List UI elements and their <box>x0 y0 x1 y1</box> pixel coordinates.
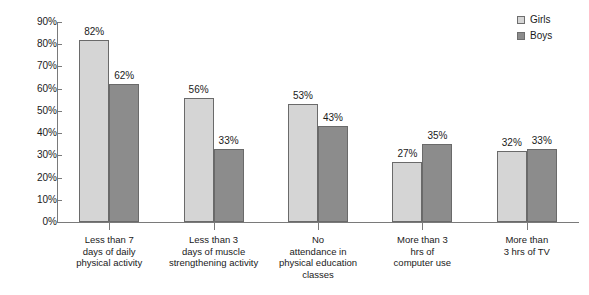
x-axis-tick <box>527 223 528 230</box>
bar-value-label: 43% <box>316 113 350 123</box>
category-label-line: strengthening activity <box>161 257 265 269</box>
category-label-line: More than 3 <box>370 234 474 246</box>
x-axis-tick <box>214 223 215 230</box>
y-axis-tick-label: 20% <box>16 173 57 183</box>
y-axis-tick-label: 10% <box>16 195 57 205</box>
y-axis-tick-label-wrap: 20% <box>16 173 57 183</box>
category-label-1: Less than 3days of musclestrengthening a… <box>161 234 265 269</box>
x-axis-tick <box>109 223 110 230</box>
bar-girls-4 <box>497 151 527 222</box>
bar-boys-1 <box>214 149 244 222</box>
category-label-line: 3 hrs of TV <box>475 246 579 258</box>
y-axis-tick-label: 80% <box>16 39 57 49</box>
y-axis-tick-label-wrap: 40% <box>16 128 57 138</box>
category-label-line: More than <box>475 234 579 246</box>
y-axis-tick-label: 40% <box>16 128 57 138</box>
bar-value-label: 62% <box>107 71 141 81</box>
category-label-line: classes <box>266 269 370 281</box>
category-label-line: days of muscle <box>161 246 265 258</box>
y-axis-tick-label-wrap: 70% <box>16 61 57 71</box>
y-axis-tick-label-wrap: 0% <box>16 217 57 227</box>
y-axis-tick-label: 0% <box>16 217 57 227</box>
category-label-line: Less than 7 <box>57 234 161 246</box>
x-axis-tick <box>422 223 423 230</box>
category-label-line: hrs of <box>370 246 474 258</box>
bar-chart: Girls Boys 0%10%20%30%40%50%60%70%80%90%… <box>0 0 589 295</box>
category-label-line: No <box>266 234 370 246</box>
category-label-4: More than3 hrs of TV <box>475 234 579 257</box>
bar-boys-2 <box>318 126 348 222</box>
y-axis-tick-label-wrap: 50% <box>16 106 57 116</box>
bar-value-label: 56% <box>182 85 216 95</box>
y-axis-tick-label-wrap: 60% <box>16 84 57 94</box>
y-axis-tick-label-wrap: 10% <box>16 195 57 205</box>
category-label-line: physical activity <box>57 257 161 269</box>
category-label-3: More than 3hrs ofcomputer use <box>370 234 474 269</box>
bar-girls-2 <box>288 104 318 222</box>
bar-value-label: 53% <box>286 91 320 101</box>
category-label-2: Noattendance inphysical educationclasses <box>266 234 370 280</box>
category-label-line: computer use <box>370 257 474 269</box>
y-axis-tick-label: 60% <box>16 84 57 94</box>
bar-value-label: 27% <box>390 149 424 159</box>
bar-girls-3 <box>392 162 422 222</box>
bar-value-label: 82% <box>77 27 111 37</box>
category-label-line: Less than 3 <box>161 234 265 246</box>
y-axis-tick-label: 30% <box>16 150 57 160</box>
bar-girls-0 <box>79 40 109 222</box>
category-label-line: physical education <box>266 257 370 269</box>
category-label-line: attendance in <box>266 246 370 258</box>
bar-value-label: 33% <box>525 136 559 146</box>
y-axis-tick-label-wrap: 30% <box>16 150 57 160</box>
bar-boys-4 <box>527 149 557 222</box>
y-axis-tick-label: 50% <box>16 106 57 116</box>
bar-boys-3 <box>422 144 452 222</box>
bar-value-label: 33% <box>212 136 246 146</box>
bar-value-label: 32% <box>495 138 529 148</box>
category-label-0: Less than 7days of dailyphysical activit… <box>57 234 161 269</box>
x-axis-tick <box>318 223 319 230</box>
y-axis-tick-label: 90% <box>16 17 57 27</box>
y-axis-tick-label-wrap: 90% <box>16 17 57 27</box>
y-axis-tick-label: 70% <box>16 61 57 71</box>
bar-value-label: 35% <box>420 131 454 141</box>
y-axis-tick <box>57 222 62 223</box>
bar-boys-0 <box>109 84 139 222</box>
category-label-line: days of daily <box>57 246 161 258</box>
bar-girls-1 <box>184 98 214 222</box>
y-axis-tick-label-wrap: 80% <box>16 39 57 49</box>
